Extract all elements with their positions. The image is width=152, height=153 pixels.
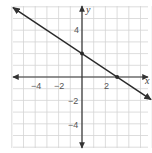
- y-tick-label: 4: [74, 25, 79, 35]
- y-axis-label: y: [85, 4, 91, 15]
- x-tick-label: −2: [54, 81, 64, 91]
- y-tick-label: −4: [68, 120, 78, 130]
- tick-labels: −4 −2 2 4 −2 −4 x y: [31, 4, 150, 130]
- x-axis-label: x: [144, 75, 150, 86]
- axes: [13, 6, 148, 148]
- coordinate-plane: −4 −2 2 4 −2 −4 x y: [0, 0, 152, 153]
- x-tick-label: −4: [31, 81, 41, 91]
- plotted-point: [115, 75, 119, 79]
- x-tick-label: 2: [104, 81, 109, 91]
- y-tick-label: −2: [68, 96, 78, 106]
- plotted-point: [80, 52, 84, 56]
